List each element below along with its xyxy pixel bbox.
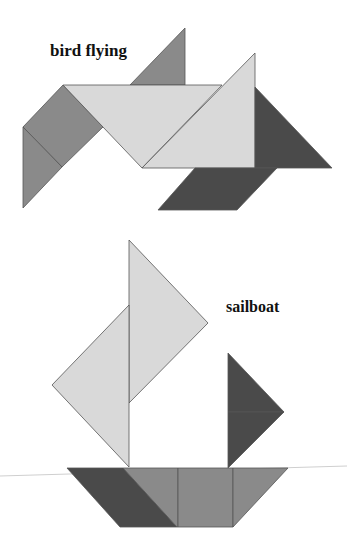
small-triangle-flag-bottom-piece (228, 412, 284, 468)
tangram-figures (0, 0, 347, 555)
square-hull-piece (178, 468, 233, 527)
large-triangle-main-sail-piece (129, 240, 208, 403)
small-triangle-flag-top-piece (228, 353, 284, 412)
small-triangle-top-piece (130, 28, 185, 85)
medium-triangle-tail-piece (255, 87, 332, 168)
small-triangle-bow-piece (233, 468, 288, 527)
parallelogram-feet-piece (158, 168, 277, 210)
sailboat-label: sailboat (226, 299, 279, 315)
large-triangle-front-sail-piece (52, 305, 129, 467)
bird-flying-label: bird flying (50, 42, 127, 59)
tangram-page: bird flying sailboat (0, 0, 347, 555)
sailboat-figure (52, 240, 288, 527)
